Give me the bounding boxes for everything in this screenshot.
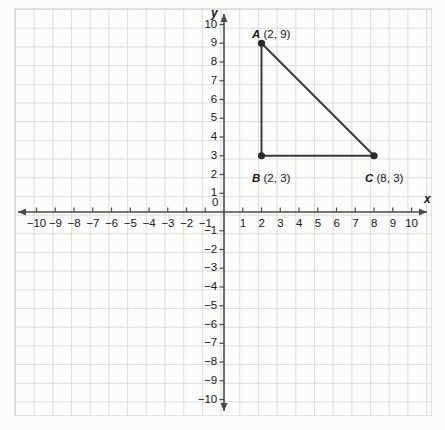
x-tick-label-1: 1 [240,217,246,229]
axis-lines [18,14,427,411]
point-b-label: B (2, 3) [252,172,290,184]
y-tick-label-2: 2 [211,168,217,180]
x-tick-label--4: −4 [143,217,156,229]
x-tick-label--9: −9 [49,217,62,229]
y-tick-label--8: −8 [204,355,217,367]
plot-svg [0,0,445,430]
coordinate-plane-figure: x y A (2, 9) B (2, 3) C (8, 3) −10−9−8−7… [0,0,445,430]
y-tick-label-10: 10 [205,18,217,30]
y-tick-label--2: −2 [204,243,217,255]
y-tick-label-6: 6 [211,93,217,105]
point-c-name: C [365,172,373,184]
y-tick-label-5: 5 [211,111,217,123]
x-tick-label--7: −7 [86,217,99,229]
point-a-label: A (2, 9) [252,28,290,40]
x-axis-left-arrow [18,208,26,215]
y-tick-label--10: −10 [198,393,217,405]
y-tick-label-9: 9 [211,36,217,48]
x-axis-right-arrow [419,208,427,215]
x-tick-label-2: 2 [258,217,264,229]
point-a-coords: (2, 9) [264,28,291,40]
x-tick-label-8: 8 [371,217,377,229]
point-c-coords: (8, 3) [377,172,404,184]
point-a [258,40,265,47]
triangle-abc [258,40,378,160]
x-tick-label-5: 5 [315,217,321,229]
segment-ca [262,43,375,156]
x-tick-label-9: 9 [390,217,396,229]
y-tick-label--9: −9 [204,374,217,386]
y-tick-label--6: −6 [204,318,217,330]
point-b-coords: (2, 3) [264,172,291,184]
point-c [370,152,377,159]
x-tick-label--2: −2 [180,217,193,229]
x-tick-label--8: −8 [68,217,81,229]
x-tick-label--5: −5 [124,217,137,229]
x-axis-label: x [424,192,431,206]
x-tick-label--3: −3 [161,217,174,229]
y-tick-label--5: −5 [204,299,217,311]
y-tick-label-7: 7 [211,74,217,86]
point-a-name: A [252,28,260,40]
x-tick-label--10: −10 [27,217,46,229]
x-tick-label-10: 10 [405,217,417,229]
y-tick-label--7: −7 [204,336,217,348]
y-tick-label-8: 8 [211,55,217,67]
y-tick-label-3: 3 [211,149,217,161]
x-tick-label-3: 3 [277,217,283,229]
x-tick-label-4: 4 [296,217,302,229]
origin-label: 0 [212,196,218,208]
point-b-name: B [252,172,260,184]
y-tick-label--3: −3 [204,261,217,273]
x-tick-label-6: 6 [333,217,339,229]
x-tick-label--6: −6 [105,217,118,229]
point-c-label: C (8, 3) [365,172,403,184]
point-b [258,152,265,159]
y-axis-down-arrow [220,403,227,411]
y-tick-label-4: 4 [211,130,217,142]
y-tick-label--1: −1 [204,224,217,236]
y-tick-label--4: −4 [204,280,217,292]
y-axis-up-arrow [220,14,227,22]
x-tick-label-7: 7 [352,217,358,229]
